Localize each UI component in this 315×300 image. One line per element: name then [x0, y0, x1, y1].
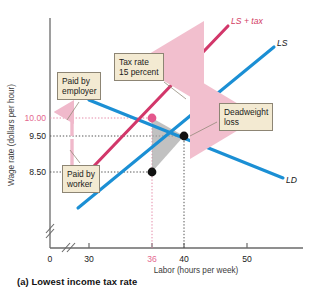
callout-deadweight-loss-line2: loss: [224, 117, 268, 127]
callout-paid-by-worker-line2: worker: [67, 179, 95, 189]
callout-paid-by-worker-line1: Paid by: [67, 169, 95, 179]
curve-label-ls-plus-tax: LS + tax: [231, 16, 263, 26]
curve-label-ls: LS: [277, 38, 288, 48]
x-axis-title: Labor (hours per week): [154, 266, 239, 275]
callout-deadweight-loss: Deadweight loss: [219, 103, 273, 131]
x-tick-label-50: 50: [242, 254, 252, 264]
callout-tax-rate-line1: Tax rate: [119, 57, 159, 67]
callout-deadweight-loss-line1: Deadweight: [224, 107, 268, 117]
tax-incidence-chart: 10.00 9.50 8.50 0 30 36 40 50 Labor (hou…: [0, 0, 315, 300]
y-axis-title: Wage rate (dollars per hour): [7, 84, 16, 186]
point-wage-received-by-worker: [148, 168, 157, 177]
callout-paid-by-employer: Paid by employer: [57, 72, 101, 100]
x-tick-label-36: 36: [147, 254, 157, 264]
figure-caption: (a) Lowest income tax rate: [17, 276, 137, 287]
callout-paid-by-employer-line1: Paid by: [62, 76, 96, 86]
x-axis-ticks: [89, 243, 247, 248]
callout-paid-by-worker: Paid by worker: [62, 165, 100, 193]
callout-tax-rate: Tax rate 15 percent: [114, 53, 164, 81]
leader-deadweight-loss: [190, 122, 217, 136]
curve-label-ld: LD: [286, 175, 297, 185]
callout-paid-by-employer-line2: employer: [62, 86, 96, 96]
y-tick-label-10: 10.00: [24, 113, 46, 123]
y-tick-label-850: 8.50: [29, 167, 46, 177]
point-no-tax-equilibrium: [180, 132, 189, 141]
point-wage-paid-by-employer: [148, 114, 157, 123]
callout-tax-rate-line2: 15 percent: [119, 67, 159, 77]
figure-root: 10.00 9.50 8.50 0 30 36 40 50 Labor (hou…: [0, 0, 315, 300]
x-origin-label: 0: [48, 254, 53, 264]
y-tick-label-950: 9.50: [29, 131, 46, 141]
x-tick-label-30: 30: [84, 254, 94, 264]
x-tick-label-40: 40: [179, 254, 189, 264]
